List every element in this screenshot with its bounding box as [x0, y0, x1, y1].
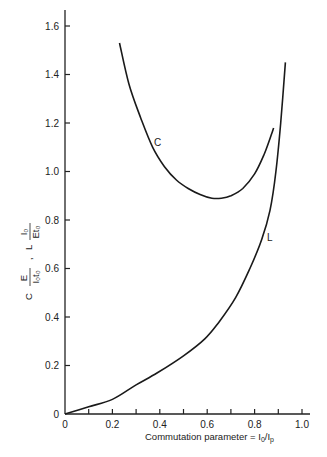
x-tick-label: 0.2 — [105, 419, 119, 430]
chart: 00.20.40.60.81.01.21.41.6 00.20.40.60.81… — [0, 0, 327, 457]
svg-text:C: C — [23, 293, 34, 300]
svg-text:L: L — [23, 245, 34, 250]
y-axis-title: C E I₀t₀ , L I₀ Et₀ — [18, 223, 41, 300]
x-tick-label: 1.0 — [295, 419, 309, 430]
y-tick-label: 1.6 — [45, 21, 59, 32]
svg-text:,: , — [23, 257, 34, 260]
x-ticks: 00.20.40.60.81.0 — [62, 409, 309, 430]
svg-text:E: E — [18, 275, 29, 281]
svg-text:I₀t₀: I₀t₀ — [30, 270, 41, 283]
y-ticks: 00.20.40.60.81.01.21.41.6 — [45, 21, 70, 420]
x-tick-label: 0.8 — [248, 419, 262, 430]
x-tick-label: 0.6 — [200, 419, 214, 430]
x-tick-label: 0.4 — [153, 419, 167, 430]
y-tick-label: 0.8 — [45, 215, 59, 226]
y-tick-label: 1.2 — [45, 118, 59, 129]
curve-c-label: C — [154, 137, 161, 148]
y-tick-label: 1.0 — [45, 166, 59, 177]
svg-text:I₀: I₀ — [18, 229, 29, 236]
y-tick-label: 0.2 — [45, 360, 59, 371]
curve-l — [65, 62, 285, 414]
curve-l-label: L — [267, 232, 273, 243]
y-tick-label: 0.4 — [45, 312, 59, 323]
x-tick-label: 0 — [62, 419, 68, 430]
y-tick-label: 0.6 — [45, 263, 59, 274]
y-tick-label: 0 — [53, 409, 59, 420]
x-axis-title: Commutation parameter = I0/Ip — [145, 431, 274, 444]
svg-text:Et₀: Et₀ — [30, 225, 41, 238]
y-tick-label: 1.4 — [45, 69, 59, 80]
curve-c — [120, 43, 274, 199]
